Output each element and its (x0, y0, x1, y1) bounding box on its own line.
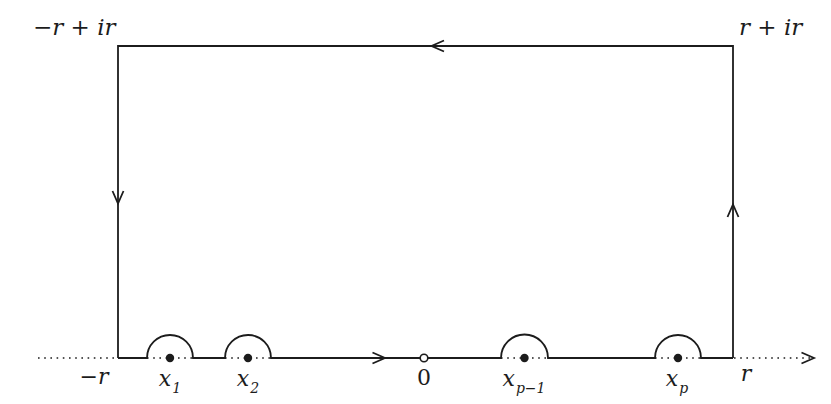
contour-integration-figure: −r + ir r + ir −r r 0 x1 x2 xp−1 xp (0, 0, 831, 404)
pole-dot-xp (674, 354, 682, 362)
label-top-left-corner: −r + ir (33, 16, 116, 39)
label-x2-sub: 2 (250, 380, 259, 396)
contour-diagram-canvas (0, 0, 831, 404)
pole-dot-xp-1 (520, 354, 528, 362)
pole-dot-x1 (166, 354, 174, 362)
label-xp-1-sub: p−1 (516, 380, 546, 396)
label-x2: x2 (223, 368, 273, 390)
label-x1-base: x (159, 366, 171, 391)
label-x2-base: x (237, 366, 249, 391)
label-minus-r: −r (69, 366, 119, 388)
label-origin: 0 (404, 367, 444, 389)
label-xp-sub: p (679, 380, 688, 396)
label-x1: x1 (145, 368, 195, 390)
pole-dot-x2 (244, 354, 252, 362)
origin-circle-icon (420, 354, 428, 362)
label-xp: xp (652, 368, 702, 390)
label-x1-sub: 1 (172, 380, 181, 396)
contour-rectangle-sides (118, 46, 733, 358)
label-xp-1-base: x (502, 366, 514, 391)
label-top-right-corner: r + ir (739, 16, 802, 39)
label-xp-base: x (666, 366, 678, 391)
label-xp-1: xp−1 (484, 368, 564, 390)
label-r: r (726, 363, 766, 385)
